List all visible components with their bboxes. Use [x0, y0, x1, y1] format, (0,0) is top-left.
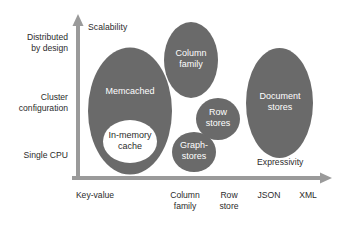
- y-tick-single-cpu: Single CPU: [0, 150, 68, 161]
- y-tick-cluster-configuration-line2: configuration: [0, 103, 68, 114]
- x-tick-key-value: Key-value: [60, 190, 130, 201]
- bubble-in-memory-cache[interactable]: [103, 120, 157, 163]
- x-tick-json-line1: JSON: [247, 190, 291, 201]
- y-tick-cluster-configuration-line1: Cluster: [0, 92, 68, 103]
- x-tick-row-store-line1: Row: [207, 190, 251, 201]
- y-tick-cluster-configuration: Cluster configuration: [0, 92, 68, 114]
- x-tick-xml: XML: [288, 190, 328, 201]
- x-tick-row-store-line2: store: [207, 201, 251, 212]
- bubble-column-family[interactable]: [164, 22, 218, 98]
- bubble-document-stores[interactable]: [246, 48, 313, 158]
- x-tick-json: JSON: [247, 190, 291, 201]
- x-tick-row-store: Row store: [207, 190, 251, 212]
- bubble-graph-stores[interactable]: [172, 132, 216, 172]
- x-tick-key-value-line1: Key-value: [60, 190, 130, 201]
- y-tick-distributed-by-design-line1: Distributed: [0, 32, 68, 43]
- x-tick-xml-line1: XML: [288, 190, 328, 201]
- scalability-expressivity-diagram: Memcached In-memory cache Column family …: [0, 0, 339, 225]
- x-axis-title: Expressivity: [257, 157, 303, 167]
- y-tick-single-cpu-line1: Single CPU: [0, 150, 68, 161]
- y-axis-title: Scalability: [88, 22, 127, 32]
- y-tick-distributed-by-design-line2: by design: [0, 43, 68, 54]
- y-tick-distributed-by-design: Distributed by design: [0, 32, 68, 54]
